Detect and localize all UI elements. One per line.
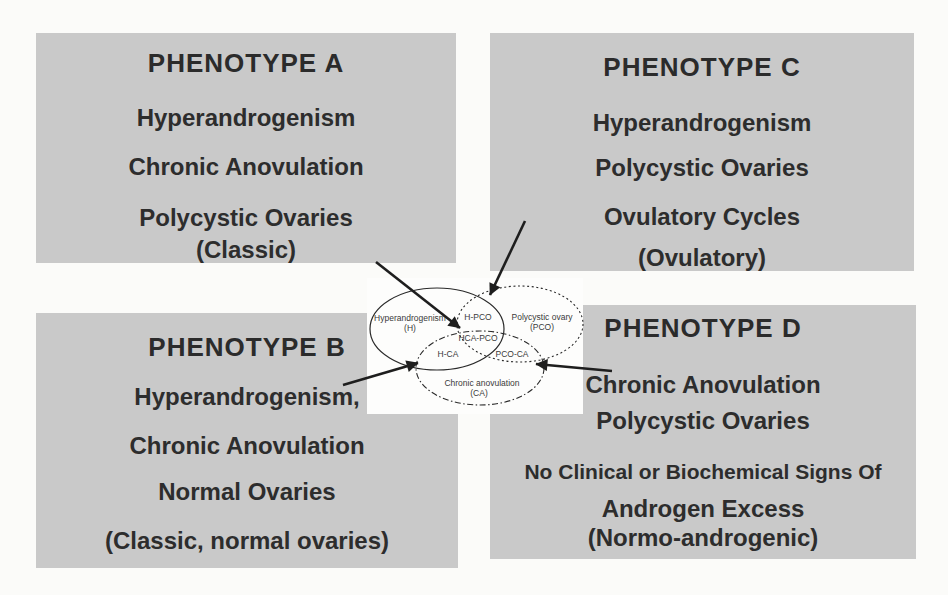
phenotype-a-line-3: Polycystic Ovaries xyxy=(36,203,456,233)
pcos-phenotype-figure: PHENOTYPE A Hyperandrogenism Chronic Ano… xyxy=(0,0,948,595)
phenotype-b-line-2: Chronic Anovulation xyxy=(36,431,458,461)
phenotype-a-line-1: Hyperandrogenism xyxy=(36,103,456,133)
region-h-pco-label: H-PCO xyxy=(464,312,492,322)
phenotype-d-title: PHENOTYPE D xyxy=(490,313,916,343)
phenotype-c-line-1: Hyperandrogenism xyxy=(490,108,914,138)
phenotype-c-line-2: Polycystic Ovaries xyxy=(490,153,914,183)
phenotype-d-panel: PHENOTYPE D Chronic Anovulation Polycyst… xyxy=(490,305,916,559)
phenotype-b-panel: PHENOTYPE B Hyperandrogenism, Chronic An… xyxy=(36,313,458,568)
phenotype-d-line-2: Polycystic Ovaries xyxy=(490,406,916,436)
phenotype-d-line-4: Androgen Excess xyxy=(490,494,916,524)
phenotype-c-title: PHENOTYPE C xyxy=(490,52,914,82)
phenotype-a-panel: PHENOTYPE A Hyperandrogenism Chronic Ano… xyxy=(36,33,456,263)
phenotype-b-title: PHENOTYPE B xyxy=(36,332,458,362)
phenotype-d-line-1: Chronic Anovulation xyxy=(490,370,916,400)
phenotype-c-line-4: (Ovulatory) xyxy=(490,243,914,273)
phenotype-d-line-3: No Clinical or Biochemical Signs Of xyxy=(490,457,916,487)
phenotype-c-line-3: Ovulatory Cycles xyxy=(490,202,914,232)
chronic-anovulation-abbr: (CA) xyxy=(470,388,488,398)
phenotype-d-line-5: (Normo-androgenic) xyxy=(490,523,916,553)
phenotype-b-line-4: (Classic, normal ovaries) xyxy=(36,526,458,556)
phenotype-b-line-3: Normal Ovaries xyxy=(36,477,458,507)
phenotype-b-line-1: Hyperandrogenism, xyxy=(36,382,458,412)
phenotype-a-line-2: Chronic Anovulation xyxy=(36,152,456,182)
phenotype-c-panel: PHENOTYPE C Hyperandrogenism Polycystic … xyxy=(490,33,914,271)
phenotype-a-title: PHENOTYPE A xyxy=(36,48,456,78)
phenotype-a-line-4: (Classic) xyxy=(36,235,456,265)
